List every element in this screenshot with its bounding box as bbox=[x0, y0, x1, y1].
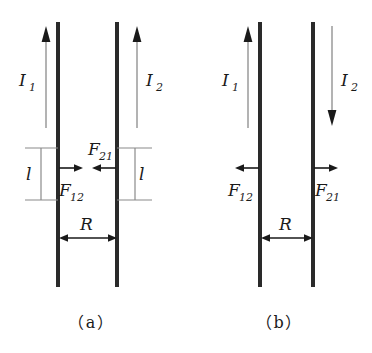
panel-b-separation-label: R bbox=[278, 214, 292, 234]
panel-b-current-1-label: I bbox=[221, 70, 229, 90]
panel-b: I 1 I 2 F 12 F 21 R （b） bbox=[221, 22, 358, 332]
panel-a-current-1-label: I bbox=[18, 70, 26, 90]
panel-a-current-2-subscript: 2 bbox=[155, 81, 163, 94]
panel-b-force-12-arrow bbox=[235, 164, 259, 172]
panel-a-current-2-arrow bbox=[133, 26, 142, 128]
panel-a-force-21-arrow bbox=[92, 164, 116, 172]
panel-b-caption: （b） bbox=[256, 313, 302, 332]
panel-b-force-21-arrow bbox=[314, 164, 338, 172]
panel-a-current-1-arrow bbox=[42, 26, 51, 128]
panel-b-current-1-subscript: 1 bbox=[232, 81, 239, 94]
panel-b-current-1-arrow bbox=[244, 26, 253, 128]
panel-a-separation-arrow bbox=[59, 234, 117, 242]
panel-b-current-2-label: I bbox=[340, 70, 348, 90]
panel-b-current-2-subscript: 2 bbox=[350, 81, 358, 94]
panel-a-current-1-subscript: 1 bbox=[29, 81, 36, 94]
panel-a-caption: （a） bbox=[68, 313, 114, 332]
panel-a-force-21-subscript: 21 bbox=[98, 150, 113, 163]
parallel-wires-force-figure: I 1 I 2 l l F 12 bbox=[0, 0, 372, 353]
panel-a-length-right-label: l bbox=[139, 164, 144, 184]
panel-a-length-right-marker bbox=[117, 148, 152, 200]
panel-a-length-left-label: l bbox=[26, 164, 31, 184]
panel-b-separation-arrow bbox=[261, 234, 313, 242]
panel-b-force-12-subscript: 12 bbox=[239, 191, 253, 204]
panel-a-separation-label: R bbox=[79, 214, 93, 234]
panel-b-force-21-subscript: 21 bbox=[325, 191, 340, 204]
panel-a-force-12-arrow bbox=[59, 164, 83, 172]
panel-a-current-2-label: I bbox=[145, 70, 153, 90]
panel-a-force-12-subscript: 12 bbox=[70, 191, 84, 204]
panel-a: I 1 I 2 l l F 12 bbox=[18, 22, 163, 332]
panel-b-current-2-arrow bbox=[328, 26, 337, 126]
